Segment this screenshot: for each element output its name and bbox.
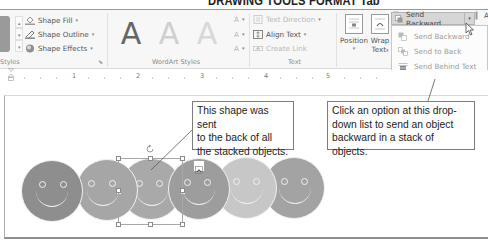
text-fill-icon: A (234, 15, 239, 24)
gallery-down-arrow-icon[interactable]: ▾ (15, 28, 23, 40)
wrap-text-button[interactable]: Wrap Text▾ (369, 14, 391, 54)
text-outline-button[interactable]: A▾ (234, 28, 244, 40)
send-backward-icon (398, 32, 408, 41)
dialog-launcher-icon[interactable]: ⬊ (98, 58, 103, 65)
menu-item-send-to-back[interactable]: Send to Back (392, 44, 488, 58)
text-direction-icon (253, 15, 263, 24)
wrap-text-icon (371, 14, 389, 34)
resize-handle-bl[interactable] (116, 222, 121, 227)
text-effects-button[interactable]: A▾ (234, 42, 244, 54)
shape-styles-group-label: Styles (0, 58, 20, 66)
resize-handle-br[interactable] (180, 222, 185, 227)
position-button[interactable]: Position ▾ (340, 14, 368, 51)
text-effects-icon: A (234, 44, 239, 53)
selection-frame (118, 158, 183, 225)
text-group-label: Text (288, 58, 301, 66)
rotate-handle-icon[interactable] (145, 144, 155, 154)
horizontal-ruler: 1 2 3 4 5 (0, 70, 488, 86)
layout-options-button[interactable] (193, 160, 205, 172)
layout-options-icon (194, 165, 204, 175)
shape-effects-button[interactable]: Shape Effects ▾ (25, 42, 93, 54)
link-icon (253, 44, 263, 53)
text-fill-button[interactable]: A▾ (234, 13, 244, 25)
resize-handle-tl[interactable] (116, 156, 121, 161)
resize-handle-mr[interactable] (180, 188, 185, 193)
wordart-style-1[interactable]: A (112, 15, 150, 53)
align-button-partial[interactable]: A (475, 9, 488, 21)
send-backward-icon (395, 15, 403, 23)
indent-marker-icon[interactable] (8, 68, 14, 84)
shape-styles-gallery-scroll[interactable]: ▴ ▾ ▾ (15, 16, 23, 52)
wordart-styles-group-label: WordArt Styles (152, 58, 200, 66)
pencil-outline-icon (25, 30, 35, 39)
resize-handle-bm[interactable] (148, 222, 153, 227)
callout-dropdown-instruction: Click an option at this drop- down list … (327, 101, 475, 150)
smiley-face-shape-1[interactable] (21, 160, 83, 222)
figure-caption: DRAWING TOOLS FORMAT Tab (208, 0, 432, 7)
resize-handle-tm[interactable] (148, 156, 153, 161)
align-text-button[interactable]: Align Text ▾ (253, 28, 306, 40)
wordart-style-3[interactable]: A (188, 15, 226, 53)
shape-effects-icon (25, 44, 35, 53)
shape-style-thumbnail[interactable] (0, 16, 10, 52)
send-to-back-icon (398, 47, 408, 56)
group-divider (336, 13, 337, 67)
send-backward-split-button[interactable]: Send Backward ▾ (391, 12, 475, 25)
create-link-button[interactable]: Create Link (253, 42, 307, 54)
group-divider (107, 13, 108, 67)
position-icon (345, 14, 363, 34)
mouse-pointer-icon (465, 22, 475, 36)
wordart-style-2[interactable]: A (150, 15, 188, 53)
group-divider (249, 13, 250, 67)
text-outline-icon: A (234, 30, 239, 39)
resize-handle-ml[interactable] (116, 188, 121, 193)
resize-handle-tr[interactable] (180, 156, 185, 161)
gallery-up-arrow-icon[interactable]: ▴ (15, 16, 23, 28)
text-direction-button[interactable]: Text Direction ▾ (253, 13, 321, 25)
shape-outline-button[interactable]: Shape Outline ▾ (25, 28, 94, 40)
align-objects-icon (475, 11, 481, 20)
paint-bucket-icon (25, 16, 35, 25)
callout-sent-to-back: This shape was sent to the back of all t… (192, 101, 294, 150)
align-text-icon (253, 30, 263, 39)
shape-fill-button[interactable]: Shape Fill ▾ (25, 14, 78, 26)
gallery-more-icon[interactable]: ▾ (15, 40, 23, 52)
